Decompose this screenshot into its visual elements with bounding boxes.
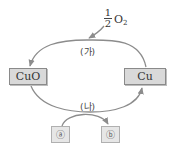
oxygen-subscript: 2	[123, 19, 127, 27]
node-cuo: CuO	[9, 68, 47, 85]
oxygen-formula: O2	[114, 13, 128, 27]
fraction-numerator: 1	[104, 8, 112, 18]
reaction-label-top: (가)	[80, 45, 95, 58]
node-cu: Cu	[124, 68, 166, 85]
node-b: ⓑ	[101, 126, 120, 143]
reaction-label-bottom: (나)	[80, 100, 95, 113]
node-a: ⓐ	[51, 126, 70, 143]
oxygen-input-arrow	[89, 26, 104, 38]
fraction-denominator: 2	[104, 19, 112, 29]
half-oxygen-label: 1 2 O2	[104, 8, 134, 32]
oxygen-symbol: O	[114, 13, 123, 26]
a-to-b-arrow	[62, 114, 108, 126]
copper-cycle-diagram: 1 2 O2 (가) (나) CuO Cu ⓐ ⓑ	[0, 0, 178, 154]
